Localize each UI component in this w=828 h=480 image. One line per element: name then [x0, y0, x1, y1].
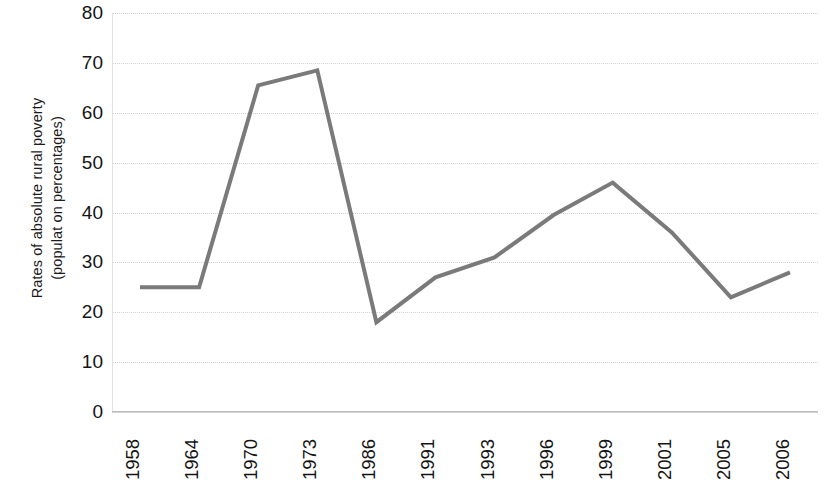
x-axis-tick-label-text: 2005 [715, 439, 734, 480]
x-axis-tick-label-text: 1970 [242, 439, 261, 480]
x-axis-tick-label: 1958 [108, 356, 127, 420]
x-axis-tick-label-text: 1996 [538, 439, 557, 480]
y-axis-tick-label: 40 [63, 203, 103, 222]
x-axis-tick-label: 1996 [522, 356, 541, 420]
y-axis-tick-label: 50 [63, 153, 103, 172]
x-axis-tick-label: 1973 [285, 356, 304, 420]
x-axis-tick-label-text: 1973 [301, 439, 320, 480]
x-axis-tick-label: 1999 [581, 356, 600, 420]
x-axis-tick-label-text: 1993 [479, 439, 498, 480]
y-axis-tick-label: 60 [63, 103, 103, 122]
x-axis-tick-labels: 1958196419701973198619911993199619992001… [112, 412, 818, 477]
x-axis-tick-label-text: 1999 [597, 439, 616, 480]
y-axis-tick-label: 80 [63, 3, 103, 22]
x-axis-tick-label: 2001 [640, 356, 659, 420]
line-series [112, 13, 818, 412]
y-axis-tick-labels: 01020304050607080 [60, 0, 103, 477]
y-axis-tick-label: 30 [63, 252, 103, 271]
x-axis-tick-label: 1986 [344, 356, 363, 420]
x-axis-tick-label: 1991 [403, 356, 422, 420]
x-axis-tick-label-text: 1986 [360, 439, 379, 480]
x-axis-tick-label-text: 2001 [656, 439, 675, 480]
y-axis-tick-label: 70 [63, 53, 103, 72]
x-axis-tick-label-text: 1991 [419, 439, 438, 480]
x-axis-tick-label: 2006 [758, 356, 777, 420]
y-axis-tick-label: 0 [63, 402, 103, 421]
x-axis-tick-label: 1970 [226, 356, 245, 420]
x-axis-tick-label: 1964 [167, 356, 186, 420]
x-axis-tick-label: 1993 [463, 356, 482, 420]
x-axis-tick-label-text: 1964 [183, 439, 202, 480]
poverty-rate-line [140, 70, 790, 322]
x-axis-tick-label-text: 2006 [774, 439, 793, 480]
y-axis-title-line-1: Rates of absolute rural poverty [27, 33, 47, 363]
y-axis-tick-label: 20 [63, 302, 103, 321]
plot-area [112, 13, 818, 412]
x-axis-tick-label-text: 1958 [124, 439, 143, 480]
y-axis-tick-label: 10 [63, 352, 103, 371]
x-axis-tick-label: 2005 [699, 356, 718, 420]
